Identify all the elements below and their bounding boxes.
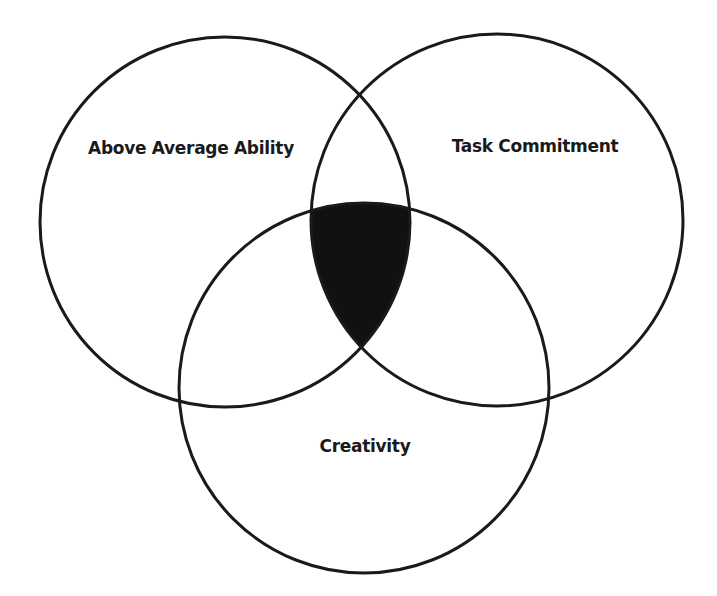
- venn-diagram: Above Average Ability Task Commitment Cr…: [0, 0, 717, 596]
- label-creativity: Creativity: [320, 436, 411, 456]
- triple-intersection-group: [179, 203, 549, 573]
- label-task-commitment: Task Commitment: [452, 136, 619, 156]
- triple-intersection-region: [179, 203, 549, 573]
- label-above-average-ability: Above Average Ability: [88, 138, 294, 158]
- venn-diagram-canvas: Above Average Ability Task Commitment Cr…: [0, 0, 717, 596]
